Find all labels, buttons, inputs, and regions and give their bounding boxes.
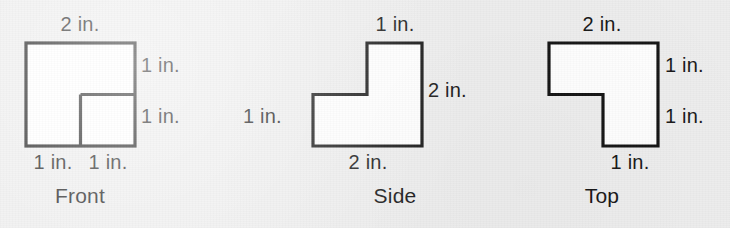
side-top-dimension-label: 1 in. <box>376 14 415 34</box>
top-right-lower-dimension-label: 1 in. <box>665 106 704 126</box>
front-view-group: 2 in. 1 in. 1 in. 1 in. 1 in. Front <box>0 0 230 228</box>
top-view-name: Top <box>585 185 619 206</box>
front-view-name: Front <box>55 185 105 206</box>
top-bottom-dimension-label: 1 in. <box>611 152 650 172</box>
top-right-upper-dimension-label: 1 in. <box>665 55 704 75</box>
top-view-group: 2 in. 1 in. 1 in. 1 in. Top <box>480 0 730 228</box>
front-bottom-right-dimension-label: 1 in. <box>89 152 128 172</box>
front-right-upper-dimension-label: 1 in. <box>141 55 180 75</box>
front-right-lower-dimension-label: 1 in. <box>141 106 180 126</box>
front-view-shape <box>22 39 140 151</box>
side-view-shape <box>309 39 434 151</box>
side-right-dimension-label: 2 in. <box>428 80 467 100</box>
side-bottom-dimension-label: 2 in. <box>349 152 388 172</box>
side-left-dimension-label: 1 in. <box>243 106 282 126</box>
front-top-dimension-label: 2 in. <box>61 14 100 34</box>
side-view-group: 1 in. 2 in. 1 in. 2 in. Side <box>230 0 480 228</box>
front-bottom-left-dimension-label: 1 in. <box>34 152 73 172</box>
top-top-dimension-label: 2 in. <box>583 14 622 34</box>
orthographic-views-figure: 2 in. 1 in. 1 in. 1 in. 1 in. Front 1 in… <box>0 0 730 228</box>
side-view-name: Side <box>374 185 417 206</box>
top-view-shape <box>545 39 670 151</box>
